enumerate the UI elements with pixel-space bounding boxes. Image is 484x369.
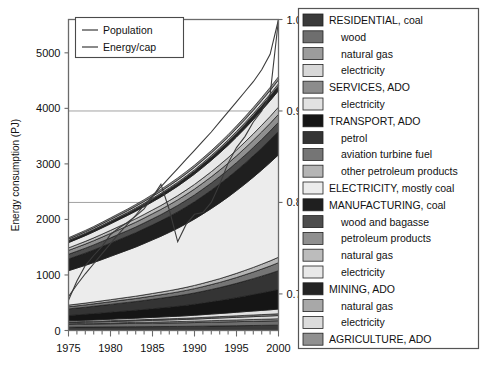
legend-swatch [303,316,323,328]
legend-item-label: MINING, ADO [329,283,395,295]
legend-item[interactable]: aviation turbine fuel [303,148,432,160]
legend-swatch [303,81,323,93]
legend-item-label: electricity [341,316,386,328]
legend-item-label: natural gas [341,300,393,312]
legend-item-label: electricity [341,64,386,76]
y-axis-title: Energy consumption (PJ) [10,119,21,231]
legend-swatch [303,48,323,60]
legend-item-label: RESIDENTIAL, coal [329,14,423,26]
legend-item-label: electricity [341,266,386,278]
x-tick-label: 1995 [224,342,248,354]
legend-item-label: ELECTRICITY, mostly coal [329,182,454,194]
legend-item[interactable]: electricity [303,64,386,76]
legend-item[interactable]: SERVICES, ADO [303,81,410,93]
legend-swatch [303,232,323,244]
figure-container: 010002000300040005000 0.70.80.91.0 19751… [0,0,484,369]
legend-item-label: natural gas [341,48,393,60]
y-tick-label: 3000 [36,158,60,170]
legend-swatch [303,300,323,312]
y-tick-label: 4000 [36,102,60,114]
legend-item-label: wood and bagasse [340,216,429,228]
legend-item-label: MANUFACTURING, coal [329,199,446,211]
legend-swatch [303,115,323,127]
legend-item[interactable]: electricity [303,266,386,278]
legend-item[interactable]: MINING, ADO [303,283,395,295]
legend-swatch [303,64,323,76]
legend-swatch [303,165,323,177]
legend-item-label: natural gas [341,249,393,261]
y-tick-label: 2000 [36,213,60,225]
y-axis-ticks: 010002000300040005000 [36,47,68,337]
legend-item-label: electricity [341,98,386,110]
legend-item-label: wood [340,31,366,43]
legend-swatch [303,333,323,345]
legend-item-label: petrol [341,132,367,144]
legend-item-label: other petroleum products [341,165,458,177]
legend-swatch [303,216,323,228]
x-axis-ticks: 197519801985199019952000 [56,331,290,354]
stacked-area-bands [69,77,279,331]
y-tick-label: 5000 [36,47,60,59]
legend-swatch [303,14,323,26]
legend-item[interactable]: natural gas [303,48,393,60]
x-tick-label: 1980 [98,342,122,354]
legend-swatch [303,98,323,110]
inner-legend: Population Energy/cap [76,18,184,58]
legend-item[interactable]: natural gas [303,300,393,312]
legend-item[interactable]: wood and bagasse [303,216,429,228]
legend-swatch [303,199,323,211]
x-tick-label: 1975 [56,342,80,354]
legend-swatch [303,148,323,160]
legend-item-label: petroleum products [341,232,431,244]
inner-legend-label-population: Population [103,24,153,36]
legend-swatch [303,283,323,295]
legend-item[interactable]: electricity [303,316,386,328]
x-tick-label: 1990 [182,342,206,354]
legend-swatch [303,182,323,194]
energy-consumption-chart: 010002000300040005000 0.70.80.91.0 19751… [0,0,484,369]
legend-swatch [303,249,323,261]
inner-legend-label-energy-per-cap: Energy/cap [103,41,156,53]
legend-item[interactable]: TRANSPORT, ADO [303,115,420,127]
legend-swatch [303,31,323,43]
x-tick-label: 2000 [266,342,290,354]
legend-item[interactable]: petroleum products [303,232,431,244]
x-tick-label: 1985 [140,342,164,354]
y-tick-label: 0 [54,325,60,337]
legend-item-label: aviation turbine fuel [341,148,432,160]
legend-item-label: AGRICULTURE, ADO [329,333,432,345]
legend-swatch [303,132,323,144]
main-legend: RESIDENTIAL, coalwoodnatural gaselectric… [299,9,479,349]
legend-item[interactable]: AGRICULTURE, ADO [303,333,432,345]
legend-swatch [303,266,323,278]
legend-item[interactable]: RESIDENTIAL, coal [303,14,423,26]
y-tick-label: 1000 [36,269,60,281]
legend-item-label: SERVICES, ADO [329,81,410,93]
legend-item[interactable]: natural gas [303,249,393,261]
legend-item-label: TRANSPORT, ADO [329,115,420,127]
legend-item[interactable]: electricity [303,98,386,110]
